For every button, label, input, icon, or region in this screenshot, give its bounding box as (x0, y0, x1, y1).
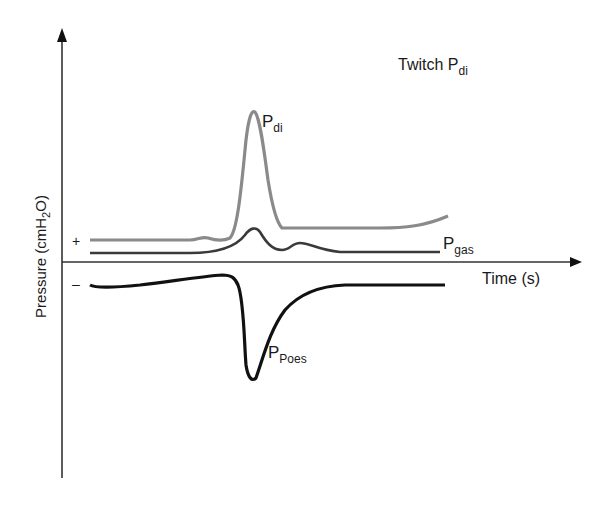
chart-title-sub: di (458, 64, 467, 78)
ppoes-label: PPoes (268, 343, 307, 363)
pgas-label-sub: gas (454, 243, 473, 257)
y-axis-label-sub: 2 (40, 212, 52, 218)
y-axis-label-post: O) (32, 195, 49, 212)
pdi-label-main: P (262, 112, 273, 131)
x-axis-label: Time (s) (482, 270, 540, 288)
pdi-label: Pdi (262, 112, 283, 132)
pgas-label: Pgas (443, 234, 474, 254)
ppoes-label-sub: Poes (279, 352, 306, 366)
plus-marker: + (72, 233, 80, 249)
pgas-label-main: P (443, 234, 454, 253)
y-axis-label-pre: Pressure (cmH (32, 218, 49, 318)
minus-marker: – (72, 276, 80, 292)
x-axis-arrow-icon (570, 257, 582, 267)
chart-title-main: Twitch P (398, 56, 458, 73)
pdi-label-sub: di (273, 121, 282, 135)
ppoes-label-main: P (268, 343, 279, 362)
y-axis-arrow-icon (57, 28, 67, 42)
y-axis-label: Pressure (cmH2O) (32, 187, 49, 327)
chart-title: Twitch Pdi (398, 56, 468, 74)
ppoes-trace (90, 275, 445, 379)
twitch-pressure-diagram (0, 0, 615, 507)
